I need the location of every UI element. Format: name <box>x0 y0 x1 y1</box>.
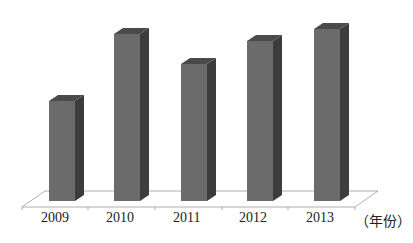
bar-2013 <box>314 23 349 201</box>
x-tick-label: 2013 <box>306 210 334 226</box>
bar-2009 <box>49 95 84 201</box>
x-tick-label: 2012 <box>239 210 267 226</box>
bar-2012 <box>247 35 282 201</box>
bar-2010 <box>114 28 149 201</box>
x-axis-unit-label: （年份） <box>355 210 411 230</box>
x-tick-label: 2011 <box>173 210 200 226</box>
bar-chart <box>0 0 413 243</box>
x-tick-label: 2009 <box>41 210 69 226</box>
bar-2011 <box>181 58 216 201</box>
bars <box>49 23 349 201</box>
x-tick-label: 2010 <box>106 210 134 226</box>
